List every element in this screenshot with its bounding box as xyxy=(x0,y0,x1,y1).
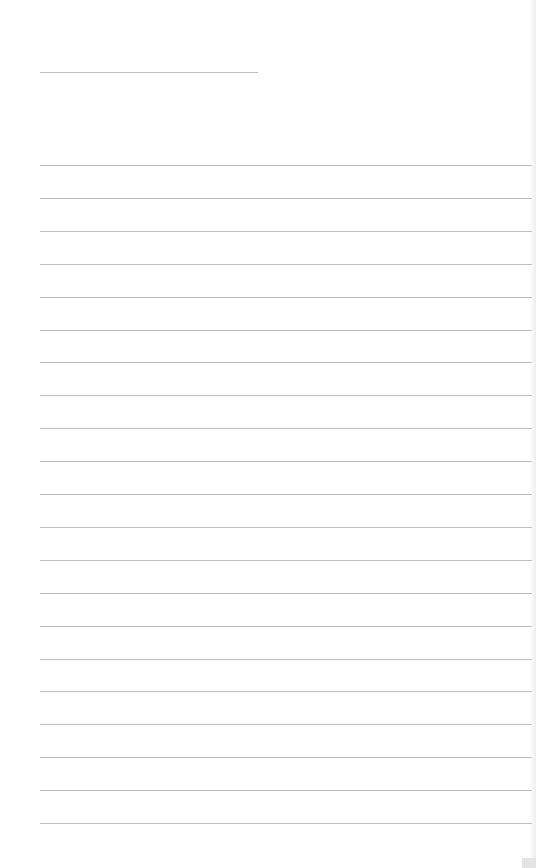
ruled-line xyxy=(40,823,532,824)
ruled-line xyxy=(40,691,532,692)
ruled-line xyxy=(40,165,532,166)
ruled-line xyxy=(40,757,532,758)
page-corner xyxy=(522,858,536,868)
ruled-line xyxy=(40,494,532,495)
ruled-line xyxy=(40,297,532,298)
ruled-line xyxy=(40,362,532,363)
ruled-line xyxy=(40,264,532,265)
ruled-line xyxy=(40,461,532,462)
ruled-line xyxy=(40,428,532,429)
title-line xyxy=(40,72,258,73)
ruled-line xyxy=(40,593,532,594)
page-edge-shadow xyxy=(530,0,536,868)
ruled-line xyxy=(40,790,532,791)
ruled-line xyxy=(40,724,532,725)
ruled-line xyxy=(40,560,532,561)
ruled-line xyxy=(40,659,532,660)
ruled-line xyxy=(40,527,532,528)
ruled-line xyxy=(40,330,532,331)
ruled-line xyxy=(40,626,532,627)
ruled-line xyxy=(40,231,532,232)
ruled-line xyxy=(40,198,532,199)
ruled-line xyxy=(40,395,532,396)
